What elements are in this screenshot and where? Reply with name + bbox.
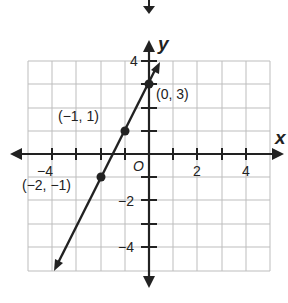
x-tick-label-4: 4 — [242, 164, 250, 178]
top-arrow-icon — [143, 0, 155, 14]
line-arrow-up-icon — [151, 62, 160, 74]
y-axis-label: y — [158, 34, 169, 53]
y-tick-label-4: 4 — [130, 54, 138, 68]
y-tick-label-neg2: −2 — [118, 194, 134, 208]
x-axis-label: x — [275, 128, 286, 147]
point-label-0-3: (0, 3) — [156, 87, 189, 101]
point-neg1-1 — [121, 127, 130, 136]
line-arrow-down-icon — [54, 259, 63, 271]
x-axis — [10, 148, 284, 160]
coordinate-plane — [0, 0, 288, 303]
data-line — [54, 62, 160, 271]
point-neg2-neg1 — [97, 173, 106, 182]
origin-label: O — [133, 159, 144, 173]
x-tick-label-neg4: −4 — [37, 164, 53, 178]
point-label-neg1-1: (−1, 1) — [58, 109, 99, 123]
point-0-3 — [145, 80, 154, 89]
y-tick-label-neg4: −4 — [118, 240, 134, 254]
point-label-neg2-neg1: (−2, −1) — [22, 178, 71, 192]
x-tick-label-2: 2 — [193, 164, 201, 178]
